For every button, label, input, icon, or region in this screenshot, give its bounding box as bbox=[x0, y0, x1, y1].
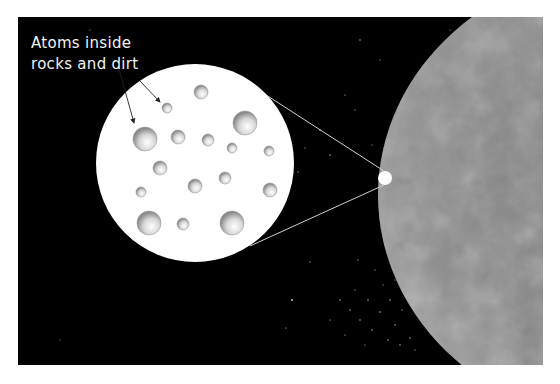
caption-line-1: Atoms inside bbox=[31, 34, 131, 52]
atom-sphere bbox=[227, 143, 237, 153]
atom-sphere bbox=[177, 218, 189, 230]
planet bbox=[378, 17, 543, 365]
atom-sphere bbox=[220, 211, 244, 235]
atom-sphere bbox=[136, 187, 146, 197]
atom-sphere bbox=[219, 172, 231, 184]
atom-sphere bbox=[162, 103, 172, 113]
atom-sphere bbox=[194, 85, 208, 99]
atom-sphere bbox=[171, 130, 185, 144]
caption-line-2: rocks and dirt bbox=[31, 55, 138, 73]
magnified-spot bbox=[378, 171, 392, 185]
atom-sphere bbox=[202, 134, 214, 146]
atom-sphere bbox=[137, 211, 161, 235]
atom-sphere bbox=[133, 127, 157, 151]
atom-sphere bbox=[188, 179, 202, 193]
atom-sphere bbox=[153, 161, 167, 175]
atom-sphere bbox=[233, 111, 257, 135]
atom-sphere bbox=[264, 146, 274, 156]
atom-sphere bbox=[263, 183, 277, 197]
space-diagram-panel: Atoms inside rocks and dirt bbox=[18, 17, 543, 365]
